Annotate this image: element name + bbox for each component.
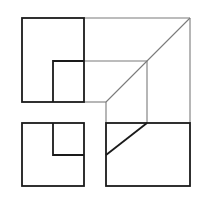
top-view-outer [106,123,190,186]
top-view-diagonal [106,123,147,155]
miter-line [106,18,190,102]
projection-diagram [0,0,207,200]
top-view [106,123,190,186]
left-view [22,123,84,186]
front-view [22,18,84,102]
front-view-inner [53,61,84,102]
projection-lines [84,18,190,123]
left-view-inner [53,123,84,155]
